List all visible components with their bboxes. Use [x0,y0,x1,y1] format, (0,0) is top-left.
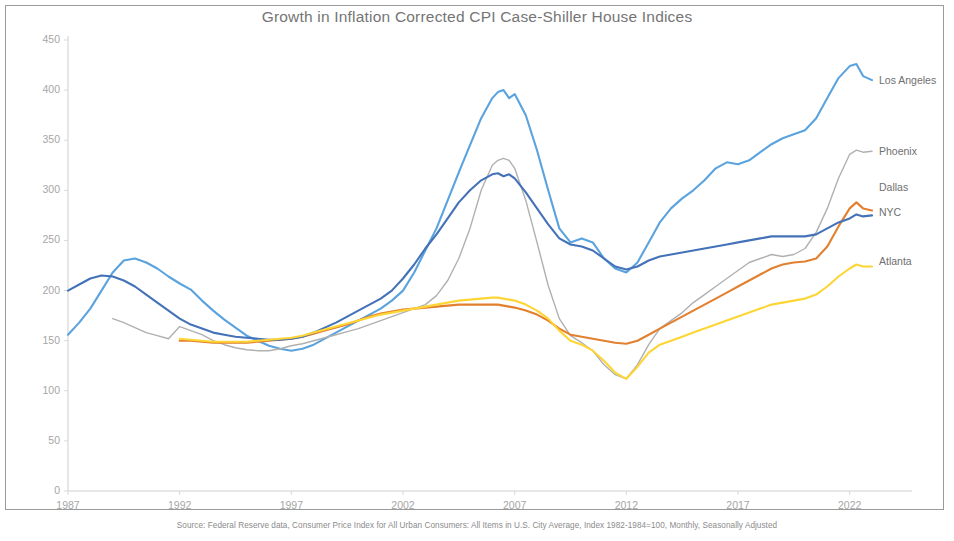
series-label-nyc: NYC [879,206,901,218]
y-axis-tick-label: 100 [20,384,60,396]
y-axis-tick-label: 300 [20,183,60,195]
series-label-los-angeles: Los Angeles [879,74,936,86]
x-axis-tick-label: 2002 [373,499,433,511]
series-line-dallas [180,202,872,343]
series-lines-group [68,64,872,379]
chart-svg [0,0,954,541]
x-axis-tick-label: 1997 [261,499,321,511]
x-axis-tick-label: 1987 [38,499,98,511]
source-note: Source: Federal Reserve data, Consumer P… [0,521,954,530]
series-label-dallas: Dallas [879,181,908,193]
series-line-phoenix [113,150,872,379]
x-axis-tick-label: 2017 [708,499,768,511]
y-axis-tick-label: 0 [20,484,60,496]
x-axis-tick-label: 2007 [485,499,545,511]
plot-area [0,0,954,541]
y-axis-tick-label: 350 [20,133,60,145]
x-axis-tick-label: 2012 [596,499,656,511]
y-axis-tick-label: 400 [20,83,60,95]
y-axis-tick-label: 250 [20,233,60,245]
series-line-los-angeles [68,64,872,351]
series-label-phoenix: Phoenix [879,145,917,157]
y-axis-tick-label: 200 [20,284,60,296]
x-axis-tick-label: 2022 [820,499,880,511]
y-axis-tick-label: 150 [20,334,60,346]
x-axis-tick-label: 1992 [150,499,210,511]
series-label-atlanta: Atlanta [879,255,912,267]
y-axis-tick-label: 450 [20,33,60,45]
y-axis-tick-label: 50 [20,434,60,446]
series-line-nyc [68,173,872,339]
chart-page: Growth in Inflation Corrected CPI Case-S… [0,0,954,541]
series-line-atlanta [180,265,872,379]
